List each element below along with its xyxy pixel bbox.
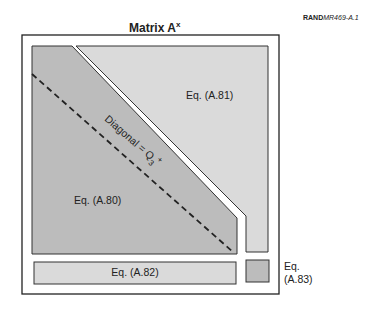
matrix-diagram: RANDMR469-A.1 Matrix Ax Eq. (A.81) Eq. (…: [0, 0, 373, 316]
label-a82: Eq. (A.82): [111, 266, 158, 278]
matrix-title: Matrix Ax: [129, 20, 181, 35]
label-a81: Eq. (A.81): [186, 89, 233, 101]
region-corner: [246, 260, 269, 282]
ref-italic: MR469-A.1: [323, 14, 359, 21]
title-text: Matrix A: [129, 21, 176, 35]
label-a83-line1: Eq.: [284, 260, 300, 272]
ref-bold: RAND: [303, 14, 323, 21]
title-superscript: x: [176, 20, 181, 29]
label-a83-line2: (A.83): [284, 273, 313, 285]
figure-reference: RANDMR469-A.1: [303, 14, 359, 21]
label-a80: Eq. (A.80): [74, 194, 121, 206]
